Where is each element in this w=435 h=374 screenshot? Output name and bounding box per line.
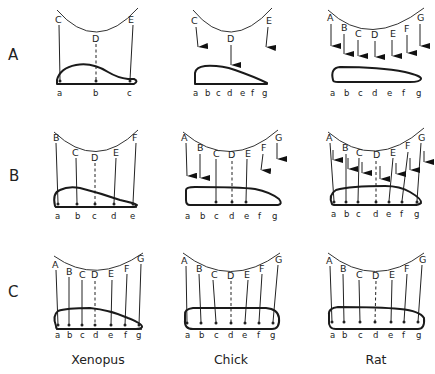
svg-text:b: b [205, 88, 210, 98]
svg-text:c: c [214, 330, 219, 340]
svg-text:g: g [414, 209, 419, 219]
svg-text:b: b [344, 88, 349, 98]
svg-text:g: g [262, 88, 267, 98]
panel-c-xenopus: A B C D E F G a b c d e f g [52, 253, 144, 340]
svg-text:d: d [373, 330, 378, 340]
svg-text:E: E [108, 268, 114, 279]
svg-text:D: D [373, 149, 380, 160]
svg-text:e: e [387, 88, 392, 98]
svg-text:B: B [53, 132, 60, 143]
svg-text:c: c [92, 211, 97, 221]
svg-text:c: c [214, 211, 219, 221]
svg-text:e: e [244, 211, 249, 221]
tectum-labels-row: a b c d e f g [330, 330, 421, 340]
panel-b-chick: A B C D E F G a b c d e f g [181, 130, 282, 221]
retina-label: E [266, 15, 272, 26]
svg-text:D: D [372, 270, 379, 281]
panel-b-rat: A B C D E F G a b c d [326, 128, 425, 219]
svg-text:C: C [72, 147, 79, 158]
row-label-c: C [8, 283, 18, 301]
svg-text:C: C [79, 269, 86, 280]
svg-text:f: f [402, 88, 406, 98]
svg-text:d: d [227, 88, 232, 98]
svg-text:f: f [258, 211, 262, 221]
svg-text:B: B [197, 142, 204, 153]
svg-text:c: c [356, 209, 361, 219]
tectum-labels-row: a b c d e f g [185, 330, 275, 340]
svg-text:a: a [330, 88, 335, 98]
retina-label: C [55, 14, 62, 25]
panel-c-rat: A B C D E F G a b c d e f g [326, 253, 426, 340]
svg-text:A: A [52, 259, 59, 270]
svg-text:E: E [113, 147, 119, 158]
tectum-labels-row: a b c d e f g [331, 209, 419, 219]
svg-text:G: G [137, 253, 144, 264]
svg-text:F: F [405, 140, 410, 151]
svg-text:f: f [124, 330, 128, 340]
svg-text:g: g [416, 88, 421, 98]
svg-text:C: C [211, 269, 218, 280]
svg-text:F: F [404, 23, 409, 34]
svg-text:B: B [341, 22, 348, 33]
svg-text:E: E [244, 269, 250, 280]
svg-text:B: B [342, 142, 349, 153]
svg-text:C: C [355, 28, 362, 39]
svg-text:E: E [389, 269, 395, 280]
svg-text:B: B [340, 263, 347, 274]
svg-text:A: A [326, 132, 333, 143]
svg-text:a: a [185, 330, 190, 340]
svg-text:d: d [228, 330, 233, 340]
svg-text:d: d [229, 211, 234, 221]
svg-text:a: a [331, 209, 336, 219]
svg-text:g: g [416, 330, 421, 340]
row-label-a: A [8, 46, 19, 64]
panel-a-chick: C D E a b c d e f g [191, 8, 272, 98]
svg-text:B: B [196, 263, 203, 274]
svg-text:a: a [193, 88, 198, 98]
svg-text:F: F [259, 263, 264, 274]
row-label-b: B [9, 167, 19, 185]
panel-a-xenopus: C D E a b c [55, 8, 138, 98]
svg-text:c: c [80, 330, 85, 340]
svg-text:F: F [132, 132, 137, 143]
svg-text:e: e [242, 330, 247, 340]
svg-text:G: G [419, 254, 426, 265]
svg-text:D: D [91, 269, 98, 280]
svg-text:g: g [270, 330, 275, 340]
svg-text:f: f [402, 330, 406, 340]
svg-text:E: E [390, 28, 396, 39]
tectum-label: c [127, 88, 132, 98]
svg-text:e: e [240, 88, 245, 98]
svg-text:A: A [327, 12, 334, 23]
svg-text:e: e [108, 330, 113, 340]
svg-text:C: C [356, 147, 363, 158]
svg-text:C: C [356, 269, 363, 280]
svg-text:A: A [181, 255, 188, 266]
tectum-labels-row: a b c d e f g [193, 88, 267, 98]
svg-text:b: b [75, 211, 80, 221]
svg-text:D: D [228, 149, 235, 160]
svg-text:d: d [373, 209, 378, 219]
species-label-xenopus: Xenopus [71, 352, 125, 367]
svg-text:g: g [136, 330, 141, 340]
svg-text:D: D [91, 152, 98, 163]
retina-label: D [92, 33, 99, 44]
svg-text:b: b [67, 330, 72, 340]
svg-text:D: D [371, 29, 378, 40]
svg-text:b: b [199, 330, 204, 340]
svg-text:F: F [404, 263, 409, 274]
svg-text:G: G [275, 132, 282, 143]
svg-text:c: c [358, 88, 363, 98]
svg-text:G: G [275, 254, 282, 265]
svg-text:E: E [390, 147, 396, 158]
svg-text:b: b [342, 330, 347, 340]
svg-text:f: f [400, 209, 404, 219]
tectum-labels-row: a b c d e f g [185, 211, 277, 221]
svg-text:a: a [55, 330, 60, 340]
svg-text:A: A [326, 255, 333, 266]
species-label-chick: Chick [214, 352, 249, 367]
svg-text:f: f [251, 88, 255, 98]
retina-label: D [227, 33, 234, 44]
svg-text:a: a [185, 211, 190, 221]
tectum-labels-row: a b c d e f g [55, 330, 141, 340]
